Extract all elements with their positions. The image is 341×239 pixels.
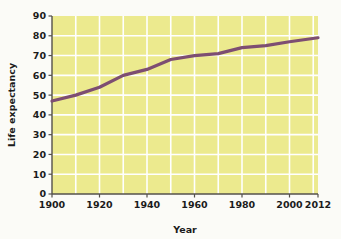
y-tick-label: 20 (33, 149, 47, 160)
y-tick-label: 80 (33, 30, 47, 41)
life-expectancy-chart: 0102030405060708090 19001920194019601980… (0, 0, 341, 239)
x-tick-label: 1960 (181, 199, 208, 210)
x-axis-label: Year (172, 224, 197, 235)
y-tick-label: 90 (33, 10, 47, 21)
x-tick-label: 1920 (86, 199, 113, 210)
y-tick-label: 30 (33, 129, 47, 140)
y-tick-label: 60 (33, 70, 47, 81)
y-tick-label: 50 (33, 90, 47, 101)
x-tick-label: 2000 (276, 199, 303, 210)
y-tick-label: 40 (33, 109, 47, 120)
y-tick-label: 0 (39, 188, 46, 199)
x-tick-label: 1980 (229, 199, 256, 210)
x-tick-label: 2012 (305, 199, 331, 210)
x-tick-label: 1900 (39, 199, 66, 210)
y-tick-label: 70 (33, 50, 47, 61)
x-tick-label: 1940 (134, 199, 161, 210)
y-axis-label: Life expectancy (6, 62, 17, 147)
y-tick-label: 10 (33, 169, 47, 180)
